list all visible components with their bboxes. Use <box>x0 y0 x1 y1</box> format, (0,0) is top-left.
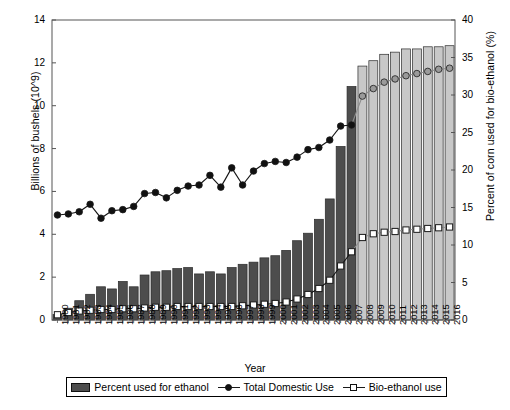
marker-bio-ethanol-use-2006 <box>338 263 344 269</box>
bar-2010 <box>380 54 389 320</box>
marker-total-domestic-use-1997 <box>239 182 246 189</box>
bar-2014 <box>423 47 432 320</box>
marker-total-domestic-use-1989 <box>152 189 159 196</box>
marker-total-domestic-use-2005 <box>326 137 333 144</box>
marker-total-domestic-use-1990 <box>163 195 170 202</box>
y-axis-left-tick-label-10: 10 <box>19 101 45 111</box>
legend-item-label: Total Domestic Use <box>244 381 334 393</box>
x-axis-tick-label-1982: 1982 <box>83 304 92 325</box>
x-axis-tick-label-2007: 2007 <box>355 304 364 325</box>
x-axis-tick-label-2003: 2003 <box>312 304 321 325</box>
x-axis-tick-label-2012: 2012 <box>410 304 419 325</box>
marker-total-domestic-use-2006 <box>337 123 344 130</box>
x-axis-tick-label-2014: 2014 <box>431 304 440 325</box>
marker-bio-ethanol-use-2014 <box>425 225 431 231</box>
x-axis-tick-label-2006: 2006 <box>344 304 353 325</box>
marker-total-domestic-use-1993 <box>196 182 203 189</box>
x-axis-tick-label-2002: 2002 <box>301 304 310 325</box>
bar-2015 <box>434 47 443 320</box>
legend-item-2[interactable]: Bio-ethanol use <box>343 381 442 393</box>
x-axis-tick-label-1997: 1997 <box>246 304 255 325</box>
chart-legend: Percent used for ethanolTotal Domestic U… <box>66 377 447 397</box>
x-axis-tick-label-1986: 1986 <box>126 304 135 325</box>
y-axis-right-tick-label-30: 30 <box>462 90 488 100</box>
x-axis-tick-label-1996: 1996 <box>235 304 244 325</box>
marker-total-domestic-use-2000 <box>272 158 279 165</box>
marker-total-domestic-use-1983 <box>87 201 94 208</box>
marker-bio-ethanol-use-2011 <box>392 228 398 234</box>
marker-total-domestic-use-2010 <box>381 79 388 86</box>
y-axis-right-tick-label-35: 35 <box>462 53 488 63</box>
bar-2009 <box>369 61 378 320</box>
y-axis-left-tick-label-12: 12 <box>19 58 45 68</box>
marker-total-domestic-use-1987 <box>130 203 137 210</box>
x-axis-tick-label-1981: 1981 <box>72 304 81 325</box>
marker-total-domestic-use-2013 <box>414 70 421 77</box>
marker-bio-ethanol-use-2008 <box>359 234 365 240</box>
x-axis-tick-label-1998: 1998 <box>257 304 266 325</box>
y-axis-left-tick-label-8: 8 <box>19 144 45 154</box>
marker-total-domestic-use-2003 <box>305 146 312 153</box>
legend-bar-swatch-icon <box>71 383 90 392</box>
legend-item-0[interactable]: Percent used for ethanol <box>71 381 208 393</box>
legend-item-1[interactable]: Total Domestic Use <box>218 381 334 393</box>
y-axis-left-tick-label-14: 14 <box>19 15 45 25</box>
marker-bio-ethanol-use-2005 <box>327 277 333 283</box>
marker-total-domestic-use-1984 <box>98 215 105 222</box>
legend-item-label: Bio-ethanol use <box>369 381 442 393</box>
marker-total-domestic-use-2009 <box>370 85 377 92</box>
marker-total-domestic-use-2016 <box>446 65 453 72</box>
marker-total-domestic-use-1985 <box>109 207 116 214</box>
x-axis-tick-label-1995: 1995 <box>224 304 233 325</box>
marker-total-domestic-use-2012 <box>403 72 410 79</box>
x-axis-tick-label-1999: 1999 <box>268 304 277 325</box>
y-axis-right-tick-label-25: 25 <box>462 128 488 138</box>
marker-total-domestic-use-1980 <box>54 212 61 219</box>
marker-total-domestic-use-1999 <box>261 160 268 167</box>
marker-total-domestic-use-1994 <box>207 172 214 179</box>
marker-total-domestic-use-2007 <box>348 122 355 129</box>
marker-bio-ethanol-use-2010 <box>381 229 387 235</box>
plot-area <box>0 0 510 410</box>
x-axis-tick-label-1988: 1988 <box>148 304 157 325</box>
y-axis-right-tick-label-20: 20 <box>462 165 488 175</box>
marker-bio-ethanol-use-2007 <box>348 249 354 255</box>
marker-total-domestic-use-1982 <box>76 208 83 215</box>
marker-total-domestic-use-2002 <box>294 154 301 161</box>
marker-bio-ethanol-use-2004 <box>316 285 322 291</box>
x-axis-tick-label-1989: 1989 <box>159 304 168 325</box>
x-axis-tick-label-2013: 2013 <box>420 304 429 325</box>
x-axis-tick-label-1980: 1980 <box>61 304 70 325</box>
marker-bio-ethanol-use-2013 <box>414 226 420 232</box>
y-axis-right-tick-label-0: 0 <box>462 315 488 325</box>
marker-total-domestic-use-2011 <box>392 76 399 83</box>
marker-total-domestic-use-1998 <box>250 168 257 175</box>
x-axis-tick-label-2000: 2000 <box>279 304 288 325</box>
chart-figure: Billions of bushels (10^9) Percent of co… <box>0 0 510 410</box>
x-axis-tick-label-2016: 2016 <box>453 304 462 325</box>
marker-total-domestic-use-1991 <box>174 187 181 194</box>
y-axis-right-tick-label-40: 40 <box>462 15 488 25</box>
legend-line-swatch-icon <box>218 383 240 392</box>
legend-open-square-icon <box>350 384 357 391</box>
marker-total-domestic-use-2004 <box>316 144 323 151</box>
x-axis-tick-label-1993: 1993 <box>203 304 212 325</box>
marker-total-domestic-use-1986 <box>120 206 127 213</box>
marker-total-domestic-use-2008 <box>359 93 366 100</box>
bar-2016 <box>445 46 454 320</box>
marker-bio-ethanol-use-2003 <box>305 291 311 297</box>
y-axis-left-tick-label-0: 0 <box>19 315 45 325</box>
marker-total-domestic-use-2001 <box>283 159 290 166</box>
legend-line-swatch-icon <box>343 383 365 392</box>
y-axis-right-tick-label-15: 15 <box>462 203 488 213</box>
bar-2011 <box>391 52 400 320</box>
marker-total-domestic-use-1992 <box>185 183 192 190</box>
x-axis-tick-label-1987: 1987 <box>137 304 146 325</box>
y-axis-left-tick-label-4: 4 <box>19 229 45 239</box>
marker-total-domestic-use-1995 <box>218 184 225 191</box>
x-axis-tick-label-1990: 1990 <box>170 304 179 325</box>
marker-total-domestic-use-1988 <box>141 190 148 197</box>
bar-2005 <box>325 199 334 320</box>
marker-bio-ethanol-use-2016 <box>446 224 452 230</box>
y-axis-right-tick-label-5: 5 <box>462 278 488 288</box>
